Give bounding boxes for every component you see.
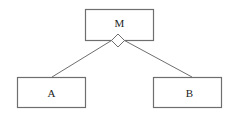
- node-m-label: M: [115, 17, 125, 29]
- edge-a-to-m: [52, 41, 112, 78]
- node-a-label: A: [48, 87, 56, 99]
- node-b-label: B: [186, 87, 193, 99]
- node-b: B: [154, 78, 222, 108]
- aggregation-diagram: M A B: [0, 0, 238, 118]
- node-a: A: [18, 78, 86, 108]
- edge-b-to-m: [125, 41, 193, 78]
